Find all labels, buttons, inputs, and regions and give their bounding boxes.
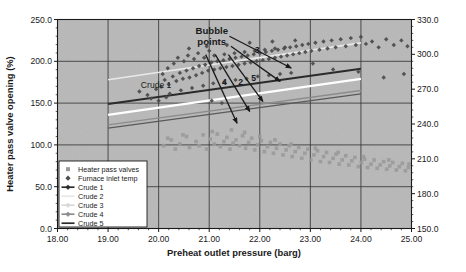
svg-text:300.0: 300.0 bbox=[417, 49, 439, 59]
legend-label-1: Heater pass valves bbox=[78, 165, 140, 174]
svg-text:330.0: 330.0 bbox=[417, 15, 439, 25]
legend-label-5: Crude 3 bbox=[78, 201, 104, 210]
chart-figure: 0.050.0100.0150.0200.0250.0150.0180.0210… bbox=[0, 0, 466, 272]
svg-text:19.00: 19.00 bbox=[97, 234, 119, 244]
legend-label-7: Crude 5 bbox=[78, 219, 104, 228]
svg-text:200.0: 200.0 bbox=[30, 56, 52, 66]
legend-label-2: Furnace inlet temp bbox=[78, 174, 138, 183]
y-axis-title: Heater pass valve opening (%) bbox=[4, 56, 15, 191]
svg-text:250.0: 250.0 bbox=[30, 15, 52, 25]
svg-text:50.0: 50.0 bbox=[35, 182, 52, 192]
svg-text:24.00: 24.00 bbox=[350, 234, 372, 244]
legend-label-4: Crude 2 bbox=[78, 192, 104, 201]
x-axis-title: Preheat outlet pressure (barg) bbox=[167, 247, 301, 258]
annotation-crude-1: Crude 1 bbox=[141, 80, 172, 90]
annotation-2: 2 bbox=[238, 77, 243, 87]
legend-label-3: Crude 1 bbox=[78, 183, 104, 192]
svg-text:18.00: 18.00 bbox=[47, 234, 69, 244]
legend-label-6: Crude 4 bbox=[78, 210, 104, 219]
chart-canvas: 0.050.0100.0150.0200.0250.0150.0180.0210… bbox=[0, 0, 466, 272]
svg-text:22.00: 22.00 bbox=[249, 234, 271, 244]
svg-text:240.0: 240.0 bbox=[417, 119, 439, 129]
legend-marker-square bbox=[66, 167, 70, 171]
svg-text:150.0: 150.0 bbox=[30, 98, 52, 108]
svg-text:180.0: 180.0 bbox=[417, 189, 439, 199]
svg-text:150.0: 150.0 bbox=[417, 224, 439, 234]
svg-text:0.0: 0.0 bbox=[40, 224, 52, 234]
svg-text:210.0: 210.0 bbox=[417, 154, 439, 164]
svg-text:23.00: 23.00 bbox=[300, 234, 322, 244]
svg-text:25.00: 25.00 bbox=[401, 234, 423, 244]
svg-text:21.00: 21.00 bbox=[198, 234, 220, 244]
svg-text:270.0: 270.0 bbox=[417, 84, 439, 94]
annotation-5: 5 bbox=[251, 73, 256, 83]
annotation-4: 4 bbox=[222, 77, 227, 87]
svg-text:20.00: 20.00 bbox=[148, 234, 170, 244]
annotation-points: points bbox=[197, 36, 226, 47]
svg-text:100.0: 100.0 bbox=[30, 140, 52, 150]
annotation-bubble: Bubble bbox=[195, 25, 228, 36]
annotation-3: 3 bbox=[255, 45, 260, 55]
chart-root: 0.050.0100.0150.0200.0250.0150.0180.0210… bbox=[0, 0, 466, 272]
